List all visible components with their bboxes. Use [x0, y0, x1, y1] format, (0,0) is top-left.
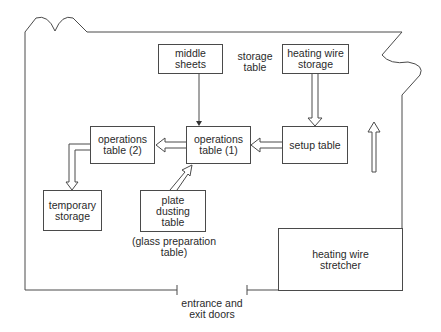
arrow-storage-to-setup	[308, 73, 322, 126]
operations-table-2-box: operations table (2)	[90, 126, 155, 164]
operations-table-1-box: operations table (1)	[186, 126, 251, 164]
arrow-setup-to-ops1	[251, 138, 282, 152]
arrow-ops2-to-temp	[66, 144, 90, 190]
setup-table-label: setup table	[289, 140, 340, 151]
setup-table-box: setup table	[282, 126, 348, 164]
arrow-dusting-to-ops1	[170, 165, 192, 190]
plate-dusting-table-label: plate dusting table	[156, 195, 190, 228]
entrance-exit-doors-label: entrance and exit doors	[172, 298, 252, 320]
operations-table-2-label: operations table (2)	[98, 134, 147, 156]
storage-table-label: storage table	[230, 51, 280, 73]
heating-wire-storage-label: heating wire storage	[287, 48, 344, 70]
heating-wire-storage-box: heating wire storage	[282, 44, 349, 74]
heating-wire-stretcher-box: heating wire stretcher	[278, 228, 403, 291]
middle-sheets-label: middle sheets	[175, 48, 206, 70]
plate-dusting-table-box: plate dusting table	[140, 190, 206, 232]
temporary-storage-box: temporary storage	[43, 190, 102, 231]
middle-sheets-box: middle sheets	[158, 44, 223, 74]
arrow-up-right	[368, 122, 380, 172]
temporary-storage-label: temporary storage	[49, 200, 96, 222]
operations-table-1-label: operations table (1)	[194, 134, 243, 156]
arrow-ops1-to-ops2	[156, 138, 186, 152]
heating-wire-stretcher-label: heating wire stretcher	[312, 249, 369, 271]
glass-preparation-note: (glass preparation table)	[126, 236, 222, 258]
